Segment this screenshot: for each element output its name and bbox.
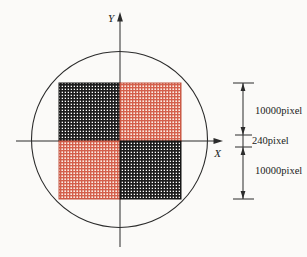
quadrant-top-right-grid: [120, 83, 181, 141]
dimension-label-bottom: 10000pixel: [255, 165, 302, 176]
quadrant-bottom-right-grid: [120, 141, 181, 199]
quadrant-bottom-left-grid: [59, 141, 120, 199]
dimension-label-top: 10000pixel: [255, 105, 302, 116]
x-axis-label: X: [213, 147, 222, 159]
quadrant-top-left-grid: [59, 83, 120, 141]
diagram-canvas: Y X 10000pixel 240pixel 10000pixel: [0, 0, 307, 257]
dimension-label-middle: 240pixel: [252, 135, 289, 146]
figure: Y X 10000pixel 240pixel 10000pixel: [0, 0, 307, 257]
